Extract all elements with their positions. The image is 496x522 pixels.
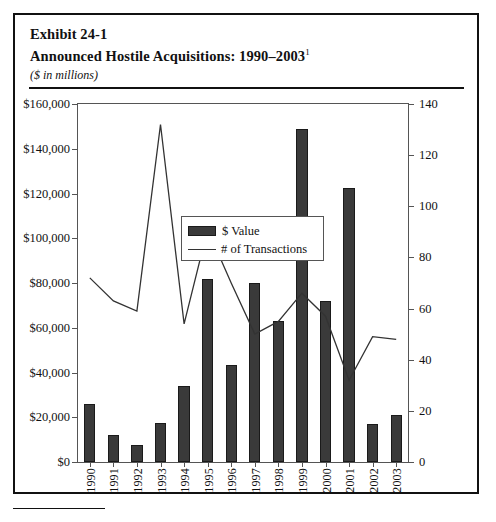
x-axis-label-1998: 1998 — [272, 468, 287, 493]
x-tick-1999 — [302, 462, 303, 467]
left-tick-0 — [72, 462, 78, 463]
left-tick-7 — [72, 149, 78, 150]
left-tick-8 — [72, 104, 78, 105]
x-axis-label-1995: 1995 — [202, 468, 217, 493]
x-axis-label-1997: 1997 — [249, 468, 264, 493]
left-axis-label-4: $80,000 — [12, 277, 70, 289]
transactions-line-series — [78, 104, 408, 462]
plot-frame: $ Value # of Transactions — [77, 103, 409, 463]
right-axis-label-3: 60 — [419, 303, 432, 315]
x-tick-1992 — [137, 462, 138, 467]
chart-area: $0$20,000$40,000$60,000$80,000$100,000$1… — [0, 0, 496, 522]
legend-entry-value: $ Value — [188, 222, 317, 240]
x-tick-1997 — [255, 462, 256, 467]
right-axis-label-7: 140 — [419, 98, 438, 110]
left-tick-6 — [72, 194, 78, 195]
right-tick-5 — [408, 206, 414, 207]
right-tick-0 — [408, 462, 414, 463]
x-tick-2002 — [373, 462, 374, 467]
x-tick-2003 — [396, 462, 397, 467]
right-tick-2 — [408, 360, 414, 361]
legend-entry-transactions: # of Transactions — [188, 240, 317, 258]
left-axis-label-3: $60,000 — [12, 322, 70, 334]
left-axis-label-7: $140,000 — [12, 143, 70, 155]
right-axis-label-6: 120 — [419, 149, 438, 161]
legend-label-transactions: # of Transactions — [221, 242, 307, 257]
right-tick-3 — [408, 309, 414, 310]
x-axis-label-2002: 2002 — [367, 468, 382, 493]
right-axis-label-4: 80 — [419, 251, 432, 263]
exhibit-page: Exhibit 24-1 Announced Hostile Acquisiti… — [0, 0, 496, 522]
x-axis-label-2001: 2001 — [343, 468, 358, 493]
x-axis-label-1992: 1992 — [131, 468, 146, 493]
right-tick-1 — [408, 411, 414, 412]
bar-swatch-icon — [188, 226, 216, 236]
x-tick-1998 — [278, 462, 279, 467]
right-axis-label-0: 0 — [419, 456, 425, 468]
right-tick-7 — [408, 104, 414, 105]
left-tick-2 — [72, 373, 78, 374]
x-tick-2000 — [326, 462, 327, 467]
x-tick-1994 — [184, 462, 185, 467]
left-tick-3 — [72, 328, 78, 329]
left-axis-label-2: $40,000 — [12, 367, 70, 379]
x-tick-1996 — [231, 462, 232, 467]
right-axis-label-1: 20 — [419, 405, 432, 417]
right-tick-6 — [408, 155, 414, 156]
x-axis-label-1993: 1993 — [155, 468, 170, 493]
left-axis-label-6: $120,000 — [12, 188, 70, 200]
x-tick-1990 — [90, 462, 91, 467]
x-axis-label-2000: 2000 — [320, 468, 335, 493]
left-axis-label-5: $100,000 — [12, 232, 70, 244]
x-tick-2001 — [349, 462, 350, 467]
x-axis-label-1994: 1994 — [178, 468, 193, 493]
right-tick-4 — [408, 257, 414, 258]
left-tick-4 — [72, 283, 78, 284]
right-axis-label-5: 100 — [419, 200, 438, 212]
footnote-rule — [13, 508, 105, 509]
x-tick-1995 — [208, 462, 209, 467]
x-axis-label-1990: 1990 — [84, 468, 99, 493]
left-axis-label-8: $160,000 — [12, 98, 70, 110]
chart-legend: $ Value # of Transactions — [181, 216, 324, 261]
x-tick-1993 — [161, 462, 162, 467]
left-axis-label-0: $0 — [12, 456, 70, 468]
left-tick-5 — [72, 238, 78, 239]
x-axis-label-1996: 1996 — [225, 468, 240, 493]
x-tick-1991 — [113, 462, 114, 467]
legend-label-value: $ Value — [222, 224, 260, 239]
x-axis-label-1999: 1999 — [296, 468, 311, 493]
right-axis-label-2: 40 — [419, 354, 432, 366]
left-tick-1 — [72, 417, 78, 418]
left-axis-label-1: $20,000 — [12, 411, 70, 423]
line-swatch-icon — [188, 249, 216, 250]
x-axis-label-2003: 2003 — [390, 468, 405, 493]
x-axis-label-1991: 1991 — [107, 468, 122, 493]
